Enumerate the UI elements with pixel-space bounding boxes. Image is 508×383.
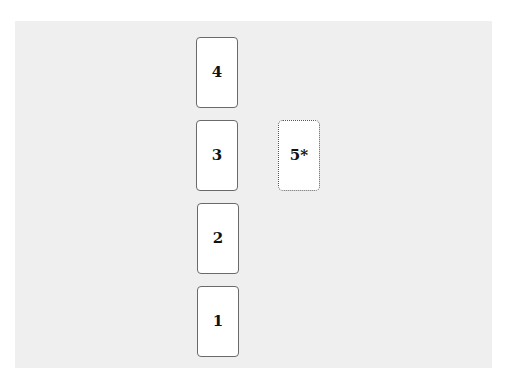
card-position-4: 4 <box>196 37 238 108</box>
card-position-2: 2 <box>197 203 239 274</box>
card-position-1: 1 <box>197 286 239 357</box>
card-label: 4 <box>212 63 222 81</box>
card-label: 3 <box>212 146 222 164</box>
card-position-3: 3 <box>196 120 238 191</box>
card-label: 5* <box>290 146 308 164</box>
card-position-5-optional: 5* <box>278 120 320 191</box>
card-label: 2 <box>213 229 223 247</box>
card-label: 1 <box>213 312 223 330</box>
spread-panel <box>15 21 492 368</box>
